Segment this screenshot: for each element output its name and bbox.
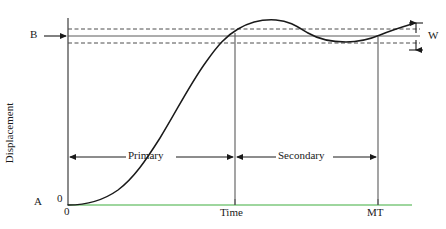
phase-label-primary: Primary	[128, 150, 163, 161]
xtick-label-mt: MT	[367, 207, 384, 218]
xtick-label-time: Time	[220, 207, 243, 218]
label-a: A	[34, 196, 42, 207]
response-curve	[68, 20, 412, 205]
label-b: B	[30, 29, 37, 40]
axis-label-y: Displacement	[4, 78, 15, 188]
origin-label-x: 0	[64, 206, 70, 217]
phase-label-secondary: Secondary	[278, 150, 324, 161]
origin-label-y: 0	[57, 193, 63, 204]
settling-time-diagram: Displacement B A 0 0 W Primary Secondary…	[0, 0, 446, 229]
plot-canvas	[0, 0, 446, 229]
band-width-label: W	[428, 30, 438, 41]
